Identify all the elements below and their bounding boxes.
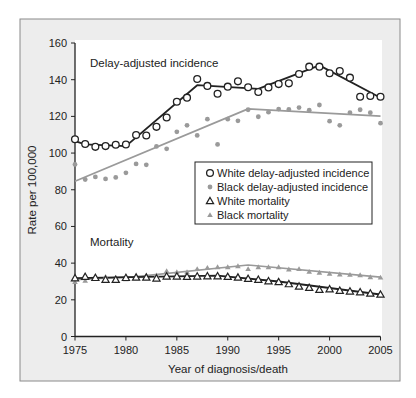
data-point-marker bbox=[224, 83, 231, 90]
x-tick-label: 1985 bbox=[165, 344, 189, 356]
data-point-marker bbox=[336, 68, 343, 75]
x-tick-label: 1990 bbox=[216, 344, 240, 356]
data-point-marker bbox=[215, 142, 220, 147]
x-tick-label: 2000 bbox=[317, 344, 341, 356]
data-point-marker bbox=[194, 76, 201, 83]
data-point-marker bbox=[246, 107, 251, 112]
data-point-marker bbox=[73, 162, 78, 167]
y-tick-label: 120 bbox=[49, 110, 67, 122]
data-point-marker bbox=[143, 132, 150, 139]
y-axis-label: Rate per 100,000 bbox=[26, 146, 38, 235]
data-point-marker bbox=[124, 170, 129, 175]
data-point-marker bbox=[377, 93, 384, 100]
data-point-marker bbox=[285, 80, 292, 87]
data-point-marker bbox=[174, 129, 179, 134]
data-point-marker bbox=[296, 71, 303, 78]
data-point-marker bbox=[337, 123, 342, 128]
x-tick-label: 1980 bbox=[114, 344, 138, 356]
data-point-marker bbox=[306, 63, 313, 70]
y-tick-label: 80 bbox=[55, 184, 67, 196]
data-point-marker bbox=[307, 108, 312, 113]
legend-marker-icon bbox=[208, 185, 213, 190]
data-point-marker bbox=[327, 119, 332, 124]
data-point-marker bbox=[144, 162, 149, 167]
data-point-marker bbox=[133, 132, 140, 139]
legend-entry-label: Black mortality bbox=[217, 209, 289, 221]
data-point-marker bbox=[153, 123, 160, 130]
data-point-marker bbox=[112, 141, 119, 148]
data-point-marker bbox=[276, 107, 281, 112]
data-point-marker bbox=[358, 107, 363, 112]
x-tick-label: 1975 bbox=[63, 344, 87, 356]
data-point-marker bbox=[82, 141, 89, 148]
data-point-marker bbox=[357, 93, 364, 100]
data-point-marker bbox=[367, 93, 374, 100]
data-point-marker bbox=[103, 177, 108, 182]
data-point-marker bbox=[214, 90, 221, 97]
data-point-marker bbox=[326, 70, 333, 77]
data-point-marker bbox=[225, 117, 230, 122]
y-tick-label: 60 bbox=[55, 220, 67, 232]
data-point-marker bbox=[286, 107, 291, 112]
data-point-marker bbox=[316, 63, 323, 70]
data-point-marker bbox=[185, 123, 190, 128]
data-point-marker bbox=[348, 110, 353, 115]
data-point-marker bbox=[266, 110, 271, 115]
data-point-marker bbox=[378, 121, 383, 126]
data-point-marker bbox=[93, 175, 98, 180]
data-point-marker bbox=[265, 84, 272, 91]
legend-marker-icon bbox=[207, 170, 214, 177]
data-point-marker bbox=[297, 105, 302, 110]
mortality-section-label: Mortality bbox=[90, 236, 134, 248]
data-point-marker bbox=[256, 114, 261, 119]
data-point-marker bbox=[317, 103, 322, 108]
data-point-marker bbox=[123, 141, 130, 148]
data-point-marker bbox=[368, 110, 373, 115]
data-point-marker bbox=[154, 144, 159, 149]
data-point-marker bbox=[245, 84, 252, 91]
legend-entry-label: White mortality bbox=[217, 195, 290, 207]
data-point-marker bbox=[204, 83, 211, 90]
data-point-marker bbox=[275, 81, 282, 88]
data-point-marker bbox=[205, 117, 210, 122]
data-point-marker bbox=[235, 78, 242, 85]
data-point-marker bbox=[184, 94, 191, 101]
x-tick-label: 1995 bbox=[266, 344, 290, 356]
data-point-marker bbox=[83, 177, 88, 182]
legend-entry-label: White delay-adjusted incidence bbox=[217, 167, 369, 179]
chart-figure: 0204060801001201401601975198019851990199… bbox=[0, 0, 416, 398]
y-tick-label: 140 bbox=[49, 74, 67, 86]
data-point-marker bbox=[347, 74, 354, 81]
legend: White delay-adjusted incidenceBlack dela… bbox=[195, 162, 372, 224]
x-tick-label: 2005 bbox=[368, 344, 392, 356]
data-point-marker bbox=[255, 89, 262, 96]
y-tick-label: 20 bbox=[55, 294, 67, 306]
data-point-marker bbox=[164, 146, 169, 151]
data-point-marker bbox=[236, 118, 241, 123]
data-point-marker bbox=[134, 161, 139, 166]
y-tick-label: 160 bbox=[49, 37, 67, 49]
y-tick-label: 0 bbox=[61, 331, 67, 343]
data-point-marker bbox=[102, 143, 109, 150]
y-tick-label: 40 bbox=[55, 257, 67, 269]
x-axis-label: Year of diagnosis/death bbox=[168, 363, 288, 375]
incidence-section-label: Delay-adjusted incidence bbox=[90, 57, 219, 69]
legend-entry-label: Black delay-adjusted incidence bbox=[217, 181, 368, 193]
data-point-marker bbox=[113, 175, 118, 180]
data-point-marker bbox=[173, 98, 180, 105]
data-point-marker bbox=[163, 114, 170, 121]
chart-canvas: 0204060801001201401601975198019851990199… bbox=[0, 0, 416, 398]
data-point-marker bbox=[92, 143, 99, 150]
y-tick-label: 100 bbox=[49, 147, 67, 159]
data-point-marker bbox=[195, 133, 200, 138]
data-point-marker bbox=[72, 136, 79, 143]
